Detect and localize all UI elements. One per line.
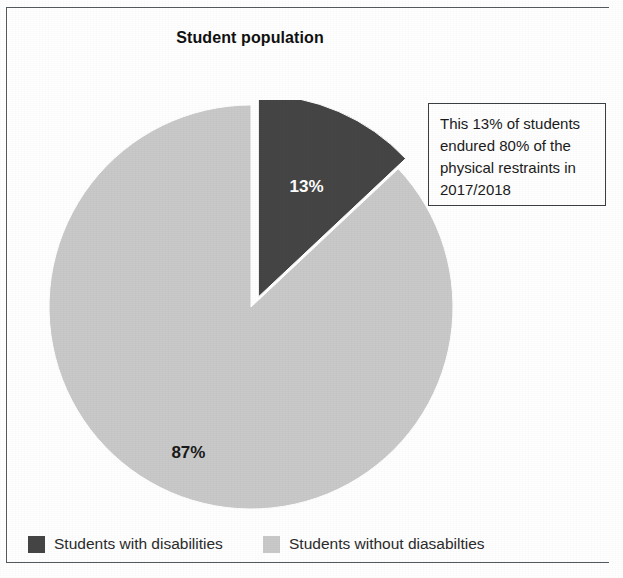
legend-swatch-light <box>263 536 280 553</box>
page-title: Student population <box>0 29 500 47</box>
legend-item-students-with-disabilities[interactable]: Students with disabilities <box>28 532 223 556</box>
page-edge-bottom <box>0 566 623 578</box>
legend-swatch-dark <box>28 536 45 553</box>
pie-chart-svg: 13% 87% <box>48 100 460 515</box>
pie-label-13-percent: 13% <box>289 177 323 196</box>
legend-item-students-without-disabilities[interactable]: Students without diasabilties <box>263 532 485 556</box>
pie-chart: 13% 87% <box>48 100 460 515</box>
legend-label-students-without-disabilities: Students without diasabilties <box>289 535 485 553</box>
annotation-text: This 13% of students endured 80% of the … <box>440 113 597 201</box>
pie-label-87-percent: 87% <box>171 443 205 462</box>
chart-legend: Students with disabilities Students with… <box>0 530 623 558</box>
chart-figure: Student population 13% 87% This 13% of s… <box>0 0 623 578</box>
annotation-callout: This 13% of students endured 80% of the … <box>428 103 606 206</box>
legend-label-students-with-disabilities: Students with disabilities <box>54 535 223 553</box>
page-edge-right <box>609 0 623 578</box>
